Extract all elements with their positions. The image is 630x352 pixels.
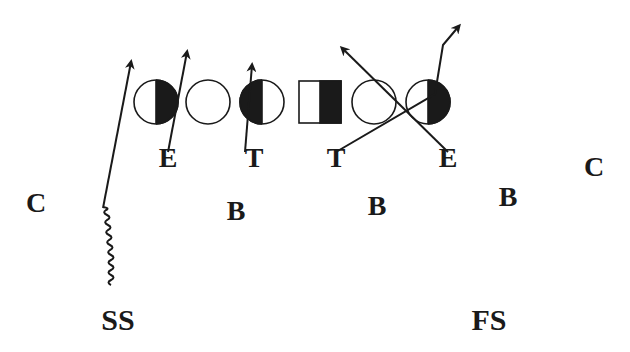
lineman-left-guard: [186, 80, 230, 124]
ss-blitz-arrow: [103, 62, 131, 208]
lineman-left-guard-2: [240, 80, 284, 124]
label-strong-safety: SS: [101, 303, 134, 336]
label-free-safety: FS: [471, 303, 506, 336]
label-left-backer: B: [227, 195, 246, 226]
label-left-end: E: [159, 142, 178, 173]
label-middle-backer: B: [368, 190, 387, 221]
routes: [103, 26, 459, 285]
defense-labels: E T T E C B B B C SS FS: [26, 142, 604, 336]
label-right-corner: C: [584, 151, 604, 182]
label-right-tackle: T: [327, 142, 346, 173]
football-play-diagram: E T T E C B B B C SS FS: [0, 0, 630, 352]
center-square: [299, 81, 341, 123]
label-right-backer: B: [499, 181, 518, 212]
ss-motion-squiggle: [103, 207, 114, 285]
lineman-right-guard: [352, 80, 396, 124]
label-right-end: E: [439, 142, 458, 173]
label-left-corner: C: [26, 187, 46, 218]
label-left-tackle: T: [245, 142, 264, 173]
lineman-left-tackle: [134, 80, 178, 124]
